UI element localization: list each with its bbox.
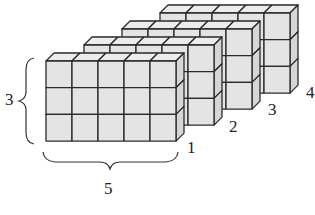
width-label: 5	[104, 180, 113, 197]
layer-label-1: 1	[187, 139, 196, 156]
layer-label-4: 4	[306, 84, 315, 101]
layer-label-3: 3	[268, 101, 277, 118]
cube-layers-diagram: 3 5 1 2 3 4	[0, 0, 315, 215]
layer-label-2: 2	[229, 118, 238, 135]
height-label: 3	[5, 91, 14, 108]
